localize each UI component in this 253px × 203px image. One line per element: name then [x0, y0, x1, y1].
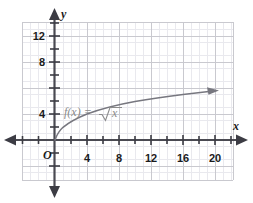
radicand-text: x [111, 106, 118, 120]
x-tick-label-12: 12 [145, 152, 157, 164]
graph-figure: y x O 4 8 12 16 20 4 8 12 f(x) = x [0, 0, 253, 203]
y-axis-arrow-down [49, 186, 60, 198]
x-axis-label: x [232, 119, 239, 133]
y-tick-label-4: 4 [39, 108, 46, 120]
origin-label: O [43, 148, 52, 162]
x-tick-label-16: 16 [177, 152, 189, 164]
x-tick-label-20: 20 [209, 152, 221, 164]
function-label-text: f(x) = [64, 105, 92, 119]
x-axis [4, 135, 248, 146]
x-axis-arrow-left [4, 135, 16, 146]
y-axis-arrow-up [49, 8, 60, 20]
x-tick-label-4: 4 [84, 152, 91, 164]
y-tick-label-8: 8 [39, 56, 45, 68]
x-axis-arrow-right [236, 135, 248, 146]
coordinate-plane-chart: y x O 4 8 12 16 20 4 8 12 f(x) = x [0, 0, 253, 203]
x-tick-label-8: 8 [116, 152, 122, 164]
y-axis-label: y [59, 7, 67, 21]
y-tick-label-12: 12 [33, 30, 45, 42]
